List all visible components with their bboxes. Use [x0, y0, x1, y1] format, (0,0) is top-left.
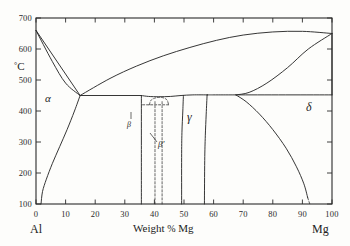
curve-delta-solvus [236, 95, 308, 198]
y-tick-label: 400 [2, 106, 32, 116]
phase-label-beta-prime: β' [158, 139, 164, 149]
curve-beta-dome-top [141, 95, 207, 97]
x-tick-label: 50 [169, 209, 199, 219]
x-tick-label: 20 [80, 209, 110, 219]
curve-beta-right-boundary [182, 96, 184, 205]
phase-label-beta: β [127, 120, 131, 129]
x-tick-label: 40 [139, 209, 169, 219]
curve-beta-liquidus-left [80, 31, 332, 95]
percent-symbol: % [167, 223, 175, 234]
y-tick-label: 600 [2, 44, 32, 54]
x-tick-label: 60 [199, 209, 229, 219]
phase-diagram-figure: 100200300400500600700 010203040506070809… [0, 0, 350, 246]
right-endmember-label: Mg [312, 222, 329, 237]
y-tick-label: 300 [2, 137, 32, 147]
beta-prime-leader-line [150, 133, 157, 142]
x-tick-label: 70 [228, 209, 258, 219]
curve-gamma-right-boundary [204, 95, 207, 204]
curve-alpha-solvus [41, 96, 80, 205]
x-tick-label: 80 [258, 209, 288, 219]
y-tick-label: 500 [2, 75, 32, 85]
x-tick-label: 90 [287, 209, 317, 219]
phase-boundary-curves [36, 30, 332, 204]
curve-delta-liquidus [236, 34, 332, 95]
y-axis-unit: C [17, 60, 24, 72]
x-axis-title: Weight % Mg [133, 222, 194, 234]
plot-frame [36, 18, 332, 204]
x-tick-label: 30 [110, 209, 140, 219]
left-endmember-label: Al [30, 222, 42, 237]
axis-ticks [36, 18, 332, 204]
y-axis-title: °C [14, 62, 25, 70]
curve-beta-prime-dome-dashed [149, 97, 168, 104]
x-tick-label: 100 [317, 209, 347, 219]
phase-label-alpha: α [45, 92, 51, 104]
curve-al-liquidus [36, 30, 80, 95]
y-tick-label: 700 [2, 13, 32, 23]
phase-label-gamma: γ [187, 110, 192, 125]
curve-delta-solvus-extension-dashed [308, 198, 310, 204]
x-tick-label: 10 [51, 209, 81, 219]
y-tick-label: 200 [2, 168, 32, 178]
y-tick-label: 100 [2, 199, 32, 209]
plot-border [36, 18, 332, 204]
x-tick-label: 0 [21, 209, 51, 219]
phase-label-delta: δ [306, 100, 312, 115]
